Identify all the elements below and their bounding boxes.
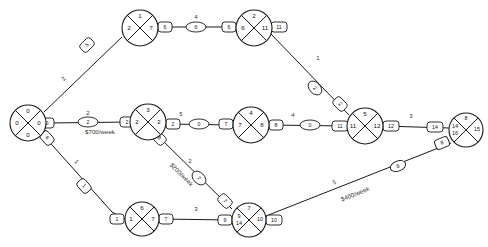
node-3-left: 2: [127, 24, 131, 31]
node-7-top: 8: [465, 115, 468, 121]
cost-label-n1-n2: $700/week: [85, 128, 116, 135]
node-9[interactable]: 7 9 14 10: [232, 203, 266, 237]
node-9-left-sub: 14: [236, 220, 242, 226]
node-7-left: 14: [452, 123, 458, 129]
tag-e2-2-text: 2: [126, 119, 129, 125]
tag-e6-1-text: 0: [198, 121, 201, 127]
node-6[interactable]: 5 11 12: [347, 108, 383, 144]
tag-e11-1: 8: [389, 158, 408, 173]
tag-e8-1: 0: [300, 120, 320, 130]
tag-e6-2-text: 7: [225, 121, 228, 127]
node-4-left: 6: [241, 24, 245, 31]
tag-e2-1: 2: [78, 117, 98, 127]
node-7-right: 15: [474, 126, 480, 132]
node-2-top: 3: [146, 106, 150, 113]
tag-e9-0: 12: [383, 121, 399, 131]
node-8[interactable]: 6 1 7: [125, 202, 159, 236]
node-9-top: 7: [248, 205, 251, 211]
node-7-left-sub: 16: [452, 130, 458, 136]
cost-label-n2-n9: $200/week: [169, 161, 196, 188]
network-diagram-canvas: 5 0 2 2 6 1 1 6: [0, 0, 488, 247]
node-7[interactable]: 8 14 16 15: [449, 113, 483, 147]
tag-e9-1: 14: [427, 122, 443, 132]
tag-e4-1-text: 6: [195, 24, 198, 30]
tag-e4-2: 6: [222, 22, 236, 32]
tag-e5-2: 2: [332, 95, 349, 112]
tag-e4-0: 6: [158, 22, 172, 32]
node-1-bottom: 0: [26, 131, 30, 138]
tag-e4-2-text: 6: [228, 24, 231, 30]
tag-e3-2-text: 1: [116, 216, 119, 222]
tag-e6-1: 0: [189, 119, 209, 129]
node-3-right: 7: [149, 24, 153, 31]
edge-label-n4-n6: 1: [316, 55, 320, 61]
tag-e5-0: 11: [271, 22, 287, 32]
node-6-right: 12: [374, 122, 381, 129]
node-6-top: 5: [363, 110, 367, 117]
node-1-left: 0: [15, 119, 19, 126]
node-1-top: 0: [26, 107, 30, 114]
node-4[interactable]: 2 6 11: [236, 10, 272, 46]
edge-label-n1-n2: 2: [86, 110, 90, 116]
node-4-right: 11: [262, 24, 269, 31]
node-5-top: 4: [249, 109, 253, 116]
node-4-top: 2: [252, 12, 256, 19]
edge-n1-n8-line: [44, 136, 125, 219]
node-8-right: 7: [151, 215, 155, 222]
edge-label-n9-n7: 5: [332, 178, 338, 185]
edge-label-n1-n8: 1: [73, 158, 80, 165]
tag-e8-0: 8: [269, 120, 283, 130]
edge-label-n8-n9: 3: [194, 206, 198, 212]
tag-e2-1-text: 2: [87, 119, 90, 125]
edge-n9-n7-line: [266, 143, 451, 216]
edge-label-n2-n5: 5: [179, 111, 183, 117]
node-2-left: 2: [135, 118, 139, 125]
tag-e6-0-text: 2: [172, 121, 175, 127]
node-6-left: 11: [350, 122, 357, 129]
node-8-top: 6: [140, 204, 144, 211]
tag-e8-2: 11: [332, 121, 348, 131]
node-3[interactable]: 1 2 7: [122, 10, 158, 46]
node-3-top: 1: [138, 12, 142, 19]
edge-label-n1-n3: 2: [60, 75, 67, 82]
tag-e8-1-text: 0: [309, 122, 312, 128]
tag-e5-0-text: 11: [276, 24, 281, 30]
tag-e11-2: 8: [434, 136, 451, 151]
edge-label-n3-n4: 4: [194, 14, 198, 20]
tag-e5-1: 2: [305, 78, 324, 97]
node-2[interactable]: 3 2 2: [130, 104, 166, 140]
tag-e9-1-text: 14: [432, 124, 438, 130]
node-8-left: 1: [129, 215, 133, 222]
tag-e3-1: 1: [76, 177, 93, 194]
tag-e10-0: 7: [159, 214, 173, 224]
cost-label-n9-n7: $400/week: [340, 184, 371, 202]
tag-e10-1-text: 9: [224, 217, 227, 223]
tag-e10-0-text: 7: [165, 216, 168, 222]
node-9-left: 9: [238, 213, 241, 219]
tag-e6-2: 7: [219, 119, 233, 129]
edge-label-n5-n6: 4: [291, 112, 295, 118]
tag-e8-2-text: 11: [337, 123, 342, 129]
tag-e3-2: 1: [110, 214, 124, 224]
edge-label-n2-n9: 2: [188, 158, 192, 164]
tag-e11-0-text: 10: [271, 217, 277, 223]
tag-e4-0-text: 6: [164, 24, 167, 30]
tag-e6-0: 2: [166, 119, 180, 129]
tag-e11-0: 10: [266, 215, 282, 225]
node-5-right: 8: [260, 121, 264, 128]
tag-e8-0-text: 8: [275, 122, 278, 128]
node-5-left: 7: [238, 121, 242, 128]
node-5[interactable]: 4 7 8: [233, 107, 269, 143]
tag-e7-2: 7: [217, 193, 234, 210]
tag-e9-0-text: 12: [388, 123, 394, 129]
tag-e1-0: 5: [78, 37, 95, 54]
tag-e4-1: 6: [186, 22, 206, 32]
node-9-right: 10: [257, 216, 263, 222]
node-1-right: 0: [37, 119, 41, 126]
tag-e10-1: 9: [218, 215, 232, 225]
node-2-right: 2: [157, 118, 161, 125]
node-1[interactable]: 0 0 0 0: [10, 105, 46, 141]
edge-label-n6-n7: 3: [409, 113, 413, 119]
